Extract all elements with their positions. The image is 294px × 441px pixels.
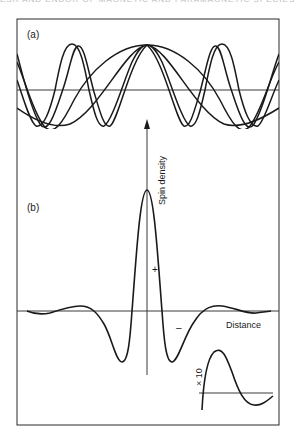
arrow-up-icon — [144, 119, 150, 129]
panel-a: (a) — [17, 29, 279, 130]
inset-scale-label: × 10 — [194, 368, 204, 386]
wave-2-curve — [17, 45, 279, 130]
x-axis-label: Distance — [226, 320, 261, 330]
positive-sign: + — [152, 264, 158, 275]
negative-sign: – — [176, 322, 182, 333]
panel-b: (b) Spin density Distance + – × 10 — [17, 119, 279, 410]
inset-curve — [202, 350, 273, 410]
y-axis-label: Spin density — [157, 155, 167, 205]
panel-a-label: (a) — [27, 29, 39, 40]
panel-b-label: (b) — [27, 202, 39, 213]
magnified-inset: × 10 — [194, 350, 273, 410]
spin-density-curve — [27, 190, 271, 362]
spin-density-figure: (a) (b) Spin density Distance + – — [0, 0, 294, 441]
